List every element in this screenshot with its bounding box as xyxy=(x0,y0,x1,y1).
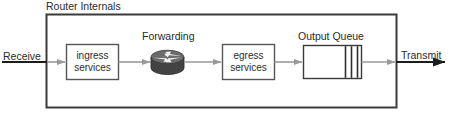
egress-services-label: egress services xyxy=(222,50,275,74)
egress-services-label-line1: egress xyxy=(222,50,275,62)
receive-label: Receive xyxy=(3,51,41,62)
container-title-label: Router Internals xyxy=(46,1,121,12)
router-icon xyxy=(151,50,184,74)
output-queue-box xyxy=(304,46,362,79)
router-internals-diagram: Router Internals ingress services Forwar… xyxy=(0,0,461,116)
ingress-services-label-line1: ingress xyxy=(66,50,119,62)
transmit-label: Transmit xyxy=(401,50,441,61)
forwarding-label: Forwarding xyxy=(142,31,195,42)
ingress-services-label: ingress services xyxy=(66,50,119,74)
egress-services-label-line2: services xyxy=(222,62,275,74)
output-queue-label: Output Queue xyxy=(298,31,364,42)
ingress-services-label-line2: services xyxy=(66,62,119,74)
